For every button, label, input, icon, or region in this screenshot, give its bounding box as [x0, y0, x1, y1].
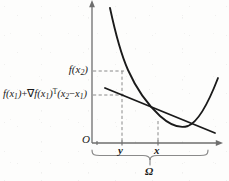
label-domain-omega: Ω: [145, 166, 153, 177]
label-origin: O: [82, 134, 90, 145]
taylor-close3: ): [84, 88, 88, 99]
x-axis-arrowhead: [216, 140, 223, 146]
label-tick-y: y: [118, 145, 123, 156]
label-f-x2: f(x2): [69, 64, 88, 77]
domain-brace: [92, 150, 208, 165]
convex-curve: [110, 8, 218, 127]
convexity-figure: f(x2) f(x1)+∇f(x1)T(x2−x1) O y x Ω: [0, 0, 229, 181]
label-tick-x: x: [154, 145, 160, 156]
label-taylor-expansion: f(x1)+∇f(x1)T(x2−x1): [3, 88, 87, 101]
label-f-x2-close: ): [84, 63, 88, 75]
y-axis-arrowhead: [89, 0, 95, 7]
axes-group: [89, 0, 223, 146]
